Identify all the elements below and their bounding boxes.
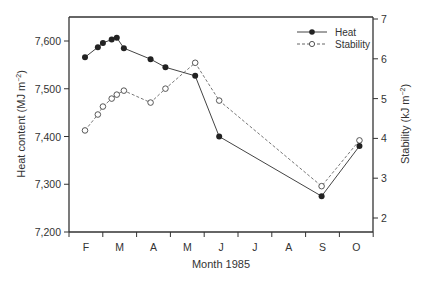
open-circle-marker-icon <box>309 41 314 46</box>
heat-point <box>148 56 154 62</box>
right-axis-title-sup: −2 <box>399 88 406 96</box>
left-y-axis: 7,2007,3007,4007,5007,600 <box>35 35 69 238</box>
heat-point <box>100 40 106 46</box>
y-tick-label: 7,600 <box>35 35 61 47</box>
stability-point <box>114 92 120 98</box>
heat-point <box>121 45 127 51</box>
heat-point <box>114 35 120 41</box>
stability-point <box>95 112 101 118</box>
right-axis-title-close: ) <box>399 84 411 88</box>
heat-point <box>356 143 362 149</box>
stability-point <box>163 86 169 92</box>
x-tick-label: M <box>183 241 192 253</box>
filled-circle-marker-icon <box>309 29 315 35</box>
legend-item-stability: Stability <box>297 39 370 50</box>
x-tick-label: A <box>285 241 292 253</box>
y-right-tick-label: 4 <box>381 132 387 144</box>
x-tick-label: S <box>319 241 326 253</box>
x-tick-label: F <box>83 241 89 253</box>
legend-label-stability: Stability <box>335 39 370 50</box>
y-tick-label: 7,200 <box>35 226 61 238</box>
stability-line <box>85 63 359 186</box>
legend: Heat Stability <box>297 27 370 50</box>
heat-point <box>192 73 198 79</box>
x-tick-label: J <box>218 241 223 253</box>
x-tick-label: J <box>252 241 257 253</box>
stability-point <box>216 98 222 104</box>
left-axis-title: Heat content (MJ m−2) <box>15 70 27 178</box>
y-tick-label: 7,400 <box>35 131 61 143</box>
heat-point <box>216 134 222 140</box>
y-right-tick-label: 7 <box>381 13 387 25</box>
x-axis: FMAMJJASO <box>69 232 373 253</box>
heat-point <box>95 44 101 50</box>
legend-label-heat: Heat <box>335 27 356 38</box>
x-tick-label: A <box>150 241 157 253</box>
x-axis-title: Month 1985 <box>192 258 250 270</box>
left-axis-title-close: ) <box>15 70 27 74</box>
right-axis-title-main: Stability (kJ m <box>399 96 411 164</box>
right-y-axis: 234567 <box>373 13 387 224</box>
stability-point <box>192 60 198 66</box>
stability-point <box>82 128 88 134</box>
plot-frame <box>69 17 373 232</box>
y-right-tick-label: 2 <box>381 212 387 224</box>
data-series <box>82 35 362 200</box>
left-axis-title-sup: −2 <box>15 74 22 82</box>
stability-point <box>357 138 363 144</box>
legend-item-heat: Heat <box>297 27 356 38</box>
y-right-tick-label: 6 <box>381 53 387 65</box>
stability-point <box>148 100 154 106</box>
stability-point <box>100 104 106 110</box>
x-tick-label: M <box>115 241 124 253</box>
x-tick-label: O <box>352 241 360 253</box>
heat-line <box>85 38 359 197</box>
y-tick-label: 7,500 <box>35 83 61 95</box>
chart: 7,2007,3007,4007,5007,600 234567 FMAMJJA… <box>0 0 428 281</box>
y-tick-label: 7,300 <box>35 178 61 190</box>
left-axis-title-main: Heat content (MJ m <box>15 82 27 178</box>
y-right-tick-label: 3 <box>381 172 387 184</box>
stability-point <box>109 96 115 102</box>
heat-point <box>319 193 325 199</box>
right-axis-title: Stability (kJ m−2) <box>399 84 411 164</box>
stability-point <box>121 88 127 94</box>
stability-point <box>319 183 325 189</box>
y-right-tick-label: 5 <box>381 93 387 105</box>
heat-point <box>162 64 168 70</box>
heat-point <box>82 54 88 60</box>
